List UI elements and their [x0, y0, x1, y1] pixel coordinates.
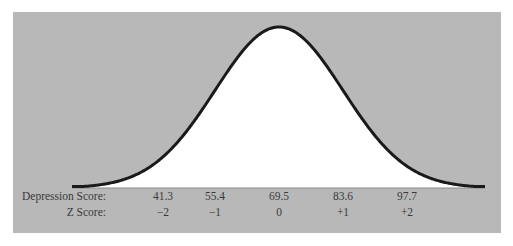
- z-score-label: Z Score:: [0, 206, 106, 218]
- depression-score-value: 41.3: [138, 190, 188, 202]
- depression-score-value: 55.4: [190, 190, 240, 202]
- z-score-value: +2: [382, 206, 432, 218]
- depression-score-value: 83.6: [318, 190, 368, 202]
- z-score-row: Z Score: −2 −1 0 +1 +2: [0, 206, 513, 222]
- z-score-value: −1: [190, 206, 240, 218]
- z-score-value: 0: [254, 206, 304, 218]
- z-score-value: −2: [138, 206, 188, 218]
- depression-score-value: 97.7: [382, 190, 432, 202]
- depression-score-label: Depression Score:: [0, 190, 106, 202]
- depression-score-value: 69.5: [254, 190, 304, 202]
- z-score-value: +1: [318, 206, 368, 218]
- curve-area: [72, 27, 485, 188]
- depression-score-row: Depression Score: 41.3 55.4 69.5 83.6 97…: [0, 190, 513, 206]
